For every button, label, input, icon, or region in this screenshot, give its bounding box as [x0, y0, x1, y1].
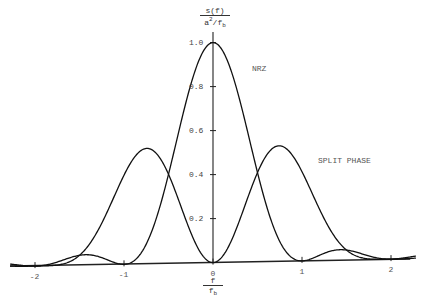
y-axis-label-denominator: a2/fb — [200, 16, 230, 29]
nrz-label: NRZ — [252, 64, 266, 73]
y-tick-label: 0.2 — [189, 214, 203, 223]
x-axis-label: f fb — [203, 276, 223, 297]
y-tick-label: 0.6 — [189, 126, 203, 135]
x-tick-label: -2 — [30, 272, 40, 281]
y-axis-label: s(f) a2/fb — [200, 6, 230, 29]
x-tick-label: 0 — [210, 269, 215, 278]
y-tick-label: 0.4 — [189, 170, 203, 179]
y-tick-label: 0.8 — [189, 82, 203, 91]
x-tick-label: 2 — [388, 265, 393, 274]
x-denominator-sub: b — [214, 290, 218, 297]
y-tick-label: 1.0 — [189, 38, 203, 47]
y-axis-label-numerator: s(f) — [200, 6, 230, 16]
spectrum-chart — [0, 0, 425, 308]
y-denominator-rest: /f — [213, 18, 223, 27]
x-tick-label: 1 — [299, 267, 304, 276]
y-denominator-sub: b — [222, 22, 226, 29]
split-phase-label: SPLIT PHASE — [318, 156, 371, 165]
x-axis-label-denominator: fb — [203, 286, 223, 297]
x-tick-label: -1 — [119, 270, 129, 279]
